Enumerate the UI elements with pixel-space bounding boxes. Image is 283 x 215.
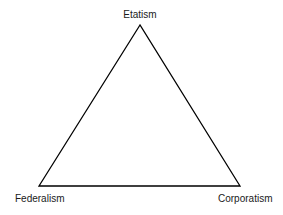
triangle-shape xyxy=(39,25,240,186)
vertex-label-corporatism: Corporatism xyxy=(218,193,272,205)
vertex-label-federalism: Federalism xyxy=(15,193,64,205)
triangle-diagram xyxy=(0,0,283,215)
vertex-label-etatism: Etatism xyxy=(123,9,156,21)
